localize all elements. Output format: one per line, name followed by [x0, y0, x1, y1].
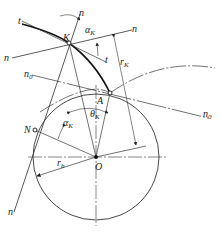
rK-dimension — [114, 37, 136, 145]
label-n-top: n — [79, 7, 84, 18]
label-t-bottom: t — [105, 54, 108, 65]
point-N — [33, 128, 37, 132]
label-n-left: n — [4, 52, 9, 63]
alpha-left-arc — [58, 127, 63, 139]
label-N: N — [23, 124, 32, 135]
reference-arc — [40, 66, 215, 112]
label-alpha-top: αK — [85, 24, 95, 37]
radius-rb — [37, 157, 96, 176]
alpha-top-arc — [60, 15, 80, 20]
theta-arc — [70, 108, 108, 113]
radius-OK — [69, 43, 96, 157]
alpha-top-arrow — [97, 43, 98, 56]
label-t-top: t — [18, 15, 21, 26]
involute-diagram: K A N O t t n n n n n0 n0 αK αK θK rK rb — [0, 0, 223, 233]
label-theta: θK — [90, 108, 100, 121]
label-A: A — [96, 95, 104, 106]
normal-line-n0 — [32, 75, 208, 118]
radius-extension — [96, 146, 146, 157]
normal-line — [12, 30, 132, 58]
point-O — [94, 155, 98, 159]
label-n-right: n — [132, 23, 137, 34]
radius-ON — [35, 130, 96, 157]
point-A — [108, 91, 112, 95]
label-rb: rb — [57, 157, 65, 170]
label-rK: rK — [120, 56, 129, 69]
label-n-bottom: n — [8, 206, 13, 217]
label-alpha-left: αK — [63, 117, 73, 130]
label-n0-left: n0 — [24, 68, 33, 81]
label-O: O — [95, 161, 102, 172]
label-n0-right: n0 — [203, 108, 212, 121]
label-K: K — [62, 32, 71, 43]
